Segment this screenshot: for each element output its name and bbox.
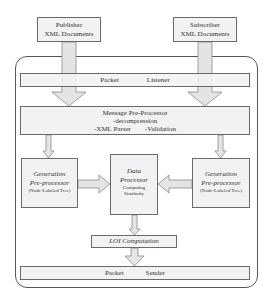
message-preprocessor-item-xml-parser: -XML Parser bbox=[94, 125, 131, 133]
packet-listener-word1: Packet bbox=[100, 74, 119, 86]
message-preprocessor-box: Message Pre-Processor -decompression -XM… bbox=[20, 106, 250, 135]
subscriber-label-line1: Subscriber bbox=[174, 21, 236, 30]
message-preprocessor-item-decompression: -decompression bbox=[21, 117, 249, 125]
subscriber-label-line2: XML Documents bbox=[174, 30, 236, 39]
loi-computation-box: LOI Computation bbox=[91, 235, 177, 248]
data-processor-line2: Processor bbox=[111, 176, 157, 185]
packet-sender-word2: Sender bbox=[146, 267, 165, 279]
flow-arrows bbox=[0, 0, 267, 297]
publisher-box: Publisher XML Documents bbox=[37, 17, 101, 42]
gen-left-line1: Generation bbox=[22, 170, 77, 179]
packet-listener-word2: Listener bbox=[147, 74, 170, 86]
message-preprocessor-item-validation: -Validation bbox=[145, 125, 176, 133]
gen-right-line1: Generation bbox=[193, 170, 249, 179]
packet-sender-bar: PacketSender bbox=[20, 266, 250, 280]
generation-preprocessor-left: Generation Pre-processor (Node-Labeled T… bbox=[21, 158, 78, 208]
gen-left-line3: (Node-Labeled Tree) bbox=[22, 188, 77, 194]
arrow-to-left-gen bbox=[43, 135, 54, 158]
packet-sender-word1: Packet bbox=[105, 267, 124, 279]
arrow-left-gen-to-data bbox=[78, 175, 110, 193]
data-processor-line1: Data bbox=[111, 167, 157, 176]
arrow-to-right-gen bbox=[215, 135, 226, 158]
generation-preprocessor-right: Generation Pre-processor (Node-Labeled T… bbox=[192, 158, 250, 208]
data-processor-line4: Similarity bbox=[111, 191, 157, 197]
gen-right-line3: (Node-Labeled Tree) bbox=[193, 188, 249, 194]
gen-left-line2: Pre-processor bbox=[22, 179, 77, 188]
data-processor-box: Data Processor Computing Similarity bbox=[110, 154, 158, 215]
loi-computation-label: LOI Computation bbox=[109, 237, 159, 245]
arrow-right-gen-to-data bbox=[158, 175, 192, 193]
publisher-label-line1: Publisher bbox=[38, 21, 100, 30]
subscriber-box: Subscriber XML Documents bbox=[173, 17, 237, 42]
message-preprocessor-title: Message Pre-Processor bbox=[21, 109, 249, 117]
packet-listener-bar: PacketListener bbox=[20, 73, 250, 87]
publisher-label-line2: XML Documents bbox=[38, 30, 100, 39]
arrow-loi-to-sender bbox=[125, 248, 144, 266]
arrow-data-to-loi bbox=[129, 215, 140, 235]
gen-right-line2: Pre-processor bbox=[193, 179, 249, 188]
